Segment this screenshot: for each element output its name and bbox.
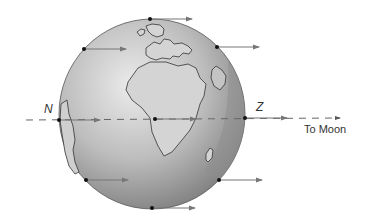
label-to-moon: To Moon bbox=[304, 123, 346, 135]
label-far-point: N bbox=[44, 102, 53, 116]
earth-diagram bbox=[0, 0, 370, 222]
label-near-point: Z bbox=[256, 100, 263, 114]
